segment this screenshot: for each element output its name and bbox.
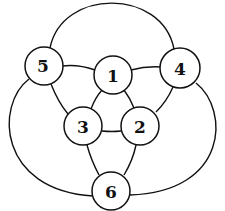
edge-1-4 xyxy=(131,67,161,70)
edge-3-6 xyxy=(87,145,99,175)
graph-diagram: 1 2 3 4 5 6 xyxy=(0,0,225,211)
node-2: 2 xyxy=(121,107,159,145)
node-3-label: 3 xyxy=(77,117,89,137)
node-3: 3 xyxy=(64,107,102,145)
edge-5-1 xyxy=(62,66,95,71)
node-1-label: 1 xyxy=(107,66,119,86)
node-6: 6 xyxy=(92,172,130,210)
edge-4-2 xyxy=(156,87,173,112)
edge-1-2 xyxy=(124,90,134,108)
node-4-label: 4 xyxy=(174,59,186,79)
edges xyxy=(9,3,216,196)
node-1: 1 xyxy=(94,56,132,94)
node-5: 5 xyxy=(25,47,63,85)
node-6-label: 6 xyxy=(105,182,117,202)
edge-2-6 xyxy=(124,145,136,175)
edge-1-3 xyxy=(91,90,102,109)
node-5-label: 5 xyxy=(37,56,49,76)
edge-5-3 xyxy=(51,84,68,114)
node-4: 4 xyxy=(160,48,200,88)
edge-5-4 xyxy=(50,3,174,49)
node-2-label: 2 xyxy=(134,117,146,137)
edge-3-2 xyxy=(102,131,121,132)
